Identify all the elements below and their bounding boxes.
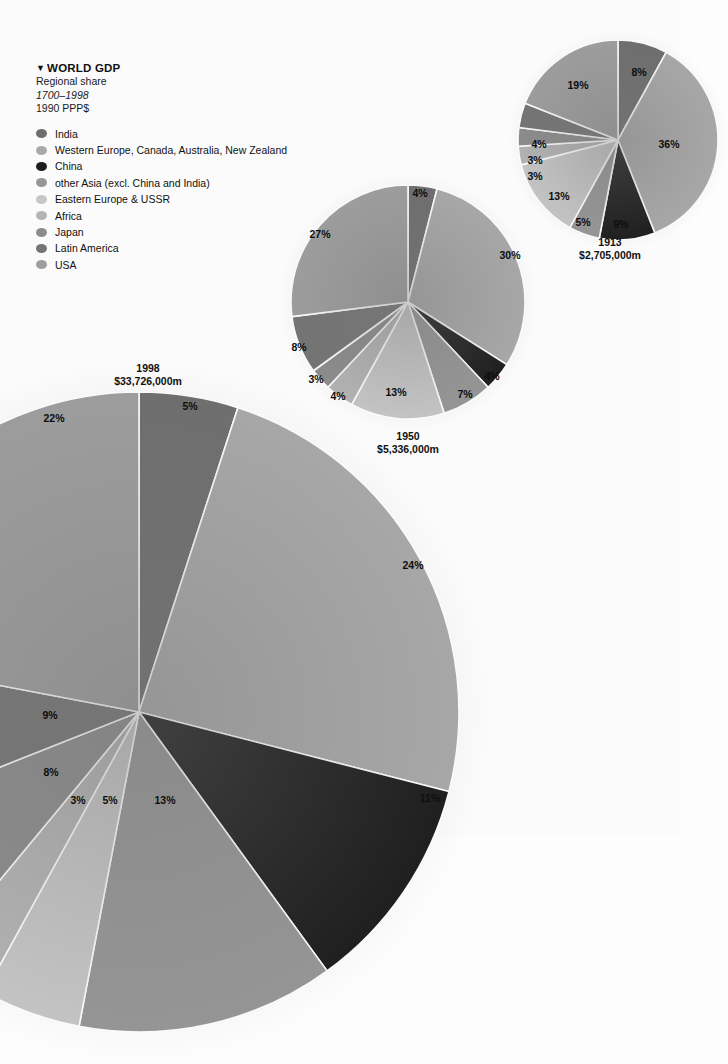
legend-item-label: Africa bbox=[55, 210, 82, 222]
legend-block: ▼WORLD GDP Regional share 1700–1998 1990… bbox=[36, 62, 336, 273]
pie-slice-percent-label: 5% bbox=[575, 216, 590, 228]
pie-slice-percent-label: 8% bbox=[631, 66, 646, 78]
legend-title-text: WORLD GDP bbox=[47, 62, 120, 74]
pie-slice-percent-label: 22% bbox=[43, 412, 64, 424]
pie-slice-percent-label: 3% bbox=[70, 794, 85, 806]
pie-slice-percent-label: 4% bbox=[531, 138, 546, 150]
pie-slice-percent-label: 24% bbox=[402, 559, 423, 571]
pie-slice-percent-label: 4% bbox=[412, 187, 427, 199]
legend-item[interactable]: India bbox=[36, 126, 336, 142]
pie-caption-total: $2,705,000m bbox=[579, 249, 641, 262]
legend-title: ▼WORLD GDP bbox=[36, 62, 336, 74]
pie-caption-total: $5,336,000m bbox=[377, 443, 439, 456]
pie-slice-percent-label: 5% bbox=[182, 400, 197, 412]
pie-caption-year: 1950 bbox=[377, 430, 439, 443]
legend-swatch-icon bbox=[36, 260, 47, 269]
legend-swatch-icon bbox=[36, 211, 47, 220]
pie-slice-percent-label: 4% bbox=[484, 370, 499, 382]
pie-slice-percent-label: 13% bbox=[385, 386, 406, 398]
legend-swatch-icon bbox=[36, 129, 47, 138]
pie-slice-percent-label: 8% bbox=[291, 341, 306, 353]
legend-item[interactable]: other Asia (excl. China and India) bbox=[36, 175, 336, 191]
legend-units: 1990 PPP$ bbox=[36, 102, 336, 116]
pie-slice-percent-label: 19% bbox=[567, 79, 588, 91]
legend-item-label: other Asia (excl. China and India) bbox=[55, 177, 210, 189]
pie-caption-year: 1913 bbox=[579, 236, 641, 249]
pie-slice-percent-label: 3% bbox=[308, 373, 323, 385]
pie-caption-year: 1998 bbox=[114, 362, 182, 375]
legend-swatch-icon bbox=[36, 244, 47, 253]
pie-slice-percent-label: 4% bbox=[330, 390, 345, 402]
pie-slice-percent-label: 13% bbox=[548, 190, 569, 202]
legend-item[interactable]: Africa bbox=[36, 207, 336, 223]
legend-item[interactable]: China bbox=[36, 158, 336, 174]
pie-slice-percent-label: 9% bbox=[613, 218, 628, 230]
legend-item[interactable]: Eastern Europe & USSR bbox=[36, 191, 336, 207]
legend-swatch-icon bbox=[36, 228, 47, 237]
legend-item-label: Japan bbox=[55, 226, 84, 238]
pie-slice-percent-label: 9% bbox=[42, 709, 57, 721]
legend-item-label: India bbox=[55, 128, 78, 140]
pie-caption: 1950$5,336,000m bbox=[377, 430, 439, 455]
triangle-marker-icon: ▼ bbox=[36, 63, 45, 73]
legend-item-label: Western Europe, Canada, Australia, New Z… bbox=[55, 144, 287, 156]
legend-item-label: Latin America bbox=[55, 242, 119, 254]
pie-slice-percent-label: 36% bbox=[658, 138, 679, 150]
legend-subtitle: Regional share bbox=[36, 75, 336, 89]
pie-slice-percent-label: 8% bbox=[43, 766, 58, 778]
pie-slice-percent-label: 13% bbox=[154, 794, 175, 806]
pie-slice-percent-label: 30% bbox=[499, 249, 520, 261]
pie-slice-percent-label: 7% bbox=[457, 388, 472, 400]
legend-swatch-icon bbox=[36, 146, 47, 155]
legend-period: 1700–1998 bbox=[36, 89, 336, 103]
legend-item[interactable]: Western Europe, Canada, Australia, New Z… bbox=[36, 142, 336, 158]
legend-swatch-icon bbox=[36, 162, 47, 171]
legend-item[interactable]: Latin America bbox=[36, 240, 336, 256]
pie-slice-percent-label: 11% bbox=[420, 792, 440, 804]
pie-caption-total: $33,726,000m bbox=[114, 375, 182, 388]
pie-caption: 1913$2,705,000m bbox=[579, 236, 641, 261]
pie-slice-percent-label: 3% bbox=[527, 154, 542, 166]
pie-slice-percent-label: 5% bbox=[102, 794, 117, 806]
pie-caption: 1998$33,726,000m bbox=[114, 362, 182, 387]
legend-item[interactable]: Japan bbox=[36, 224, 336, 240]
legend-item[interactable]: USA bbox=[36, 257, 336, 273]
legend-swatch-icon bbox=[36, 178, 47, 187]
legend-item-label: Eastern Europe & USSR bbox=[55, 193, 170, 205]
legend-item-label: China bbox=[55, 160, 82, 172]
legend-items: IndiaWestern Europe, Canada, Australia, … bbox=[36, 126, 336, 274]
pie-slice-percent-label: 3% bbox=[527, 170, 542, 182]
legend-swatch-icon bbox=[36, 195, 47, 204]
legend-item-label: USA bbox=[55, 259, 77, 271]
